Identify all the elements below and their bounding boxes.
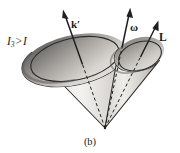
inequality-relation: > — [15, 35, 24, 47]
k-prime-arrow-head — [62, 10, 68, 20]
figure-container: I3>I k′ ω L (b) — [0, 0, 180, 153]
k-prime-label: k′ — [71, 19, 80, 30]
cone-apex-point — [104, 127, 106, 129]
inequality-label: I3>I — [7, 36, 27, 48]
inequality-compared-symbol: I — [23, 35, 27, 47]
cone-diagram-svg — [0, 0, 180, 153]
omega-label: ω — [130, 22, 138, 33]
l-arrow-head — [152, 20, 158, 31]
omega-arrow-head — [126, 8, 133, 18]
angular-momentum-label: L — [159, 32, 167, 44]
figure-caption: (b) — [0, 136, 180, 147]
